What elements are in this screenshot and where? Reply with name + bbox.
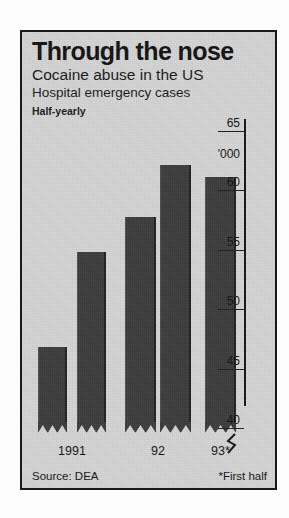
chart-subtitle: Cocaine abuse in the US <box>32 65 234 84</box>
y-axis-tick-mark <box>218 309 244 310</box>
x-axis-label: 1991 <box>42 444 102 458</box>
chart-panel: Through the nose Cocaine abuse in the US… <box>20 30 277 490</box>
y-axis-tick-mark <box>218 190 244 191</box>
y-axis-tick-mark <box>218 428 244 429</box>
bar <box>77 252 106 432</box>
footnote-label: *First half <box>218 470 267 482</box>
bar <box>125 217 156 432</box>
chart-frequency-note: Half-yearly <box>32 105 234 117</box>
scan-page: Through the nose Cocaine abuse in the US… <box>0 0 289 518</box>
y-axis-tick-mark <box>218 250 244 251</box>
y-axis-tick-label: 50 <box>214 294 240 308</box>
bar <box>160 165 191 432</box>
y-axis-tick-label: 55 <box>214 235 240 249</box>
chart-description: Hospital emergency cases <box>32 85 234 102</box>
bar-sawtooth-icon <box>160 422 191 433</box>
y-axis-tick-label: 60 <box>214 175 240 189</box>
y-axis-tick-label: 45 <box>214 354 240 368</box>
y-axis-tick-label: 65 <box>214 116 240 130</box>
y-axis-tick-mark <box>218 369 244 370</box>
chart-heading-block: Through the nose Cocaine abuse in the US… <box>32 38 234 117</box>
bar-sawtooth-icon <box>38 422 67 433</box>
bar-sawtooth-icon <box>77 422 106 433</box>
bar-sawtooth-icon <box>125 422 156 433</box>
x-axis-label: 93* <box>191 444 251 458</box>
bar <box>38 347 67 432</box>
x-axis-label: 92 <box>128 444 188 458</box>
y-axis-tick-label: 40 <box>214 413 240 427</box>
y-axis-line <box>244 119 246 407</box>
page-title: Through the nose <box>32 38 234 64</box>
source-label: Source: DEA <box>32 470 98 482</box>
y-axis-tick-mark <box>218 131 244 132</box>
y-axis-unit-label: '000 <box>214 147 240 161</box>
